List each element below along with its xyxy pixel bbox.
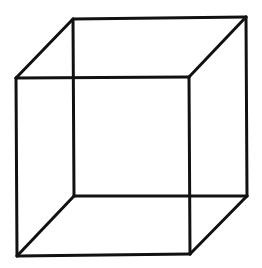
- cube-edge-front-bottom-right-to-front-bottom-left: [17, 254, 190, 256]
- cube-edge-front-top-left-to-front-top-right: [16, 77, 189, 78]
- cube-edges: [16, 17, 247, 256]
- cube-edge-back-top-left-to-back-top-right: [73, 17, 246, 19]
- cube-edge-back-top-right-to-back-bottom-right: [246, 17, 247, 196]
- cube-edge-front-bottom-left-to-back-bottom-left: [17, 196, 74, 256]
- cube-diagram-canvas: Wireframe cube (Necker cube): [0, 0, 262, 268]
- cube-edge-front-top-right-to-front-bottom-right: [189, 77, 190, 254]
- wireframe-cube: [0, 0, 262, 268]
- cube-edge-front-top-left-to-back-top-left: [16, 19, 73, 78]
- cube-edge-front-bottom-left-to-front-top-left: [16, 78, 17, 256]
- cube-edge-back-bottom-left-to-back-top-left: [73, 19, 74, 196]
- cube-edge-front-bottom-right-to-back-bottom-right: [190, 196, 247, 254]
- cube-edge-front-top-right-to-back-top-right: [189, 17, 246, 77]
